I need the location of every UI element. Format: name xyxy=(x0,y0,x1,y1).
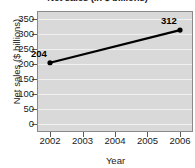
gridline xyxy=(38,64,192,65)
gridline xyxy=(38,94,192,95)
data-point-label: 312 xyxy=(161,16,177,26)
x-tick-label: 2004 xyxy=(98,136,132,146)
gridline xyxy=(38,49,192,50)
gridline xyxy=(38,79,192,80)
y-tick-label: 350 xyxy=(8,14,34,24)
x-tick-label: 2005 xyxy=(131,136,165,146)
y-tick-label: 250 xyxy=(8,44,34,54)
gridline xyxy=(38,109,192,110)
y-tick-label: 300 xyxy=(8,29,34,39)
plot-area xyxy=(37,11,193,132)
x-tick-label: 2006 xyxy=(163,136,195,146)
y-tick-label: 100 xyxy=(8,89,34,99)
y-tick-label: 150 xyxy=(8,74,34,84)
chart-title: Net sales (in $ billions) xyxy=(0,0,195,3)
y-tick-label: 50 xyxy=(8,104,34,114)
y-tick-label: 200 xyxy=(8,59,34,69)
gridline xyxy=(38,34,192,35)
x-axis-title: Year xyxy=(36,155,195,166)
chart-figure: Net sales (in $ billions) Net sales ($ b… xyxy=(0,0,195,168)
gridline xyxy=(38,124,192,125)
y-tick-label: 0 xyxy=(8,119,34,129)
x-tick-label: 2003 xyxy=(66,136,100,146)
x-tick-label: 2002 xyxy=(33,136,67,146)
